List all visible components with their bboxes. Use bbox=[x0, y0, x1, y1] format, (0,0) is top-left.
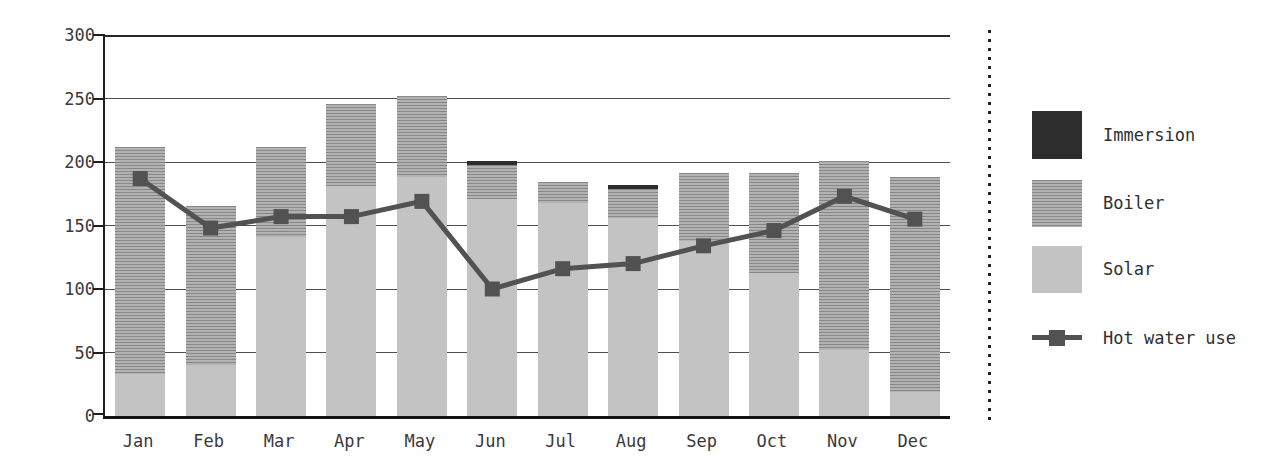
y-tick-250 bbox=[93, 98, 105, 100]
hot-water-marker-aug bbox=[626, 256, 641, 271]
plot-area bbox=[103, 35, 950, 419]
hot-water-marker-may bbox=[414, 194, 429, 209]
hot-water-use-line bbox=[105, 35, 950, 416]
x-axis-label-may: May bbox=[405, 431, 436, 451]
solar-swatch-icon bbox=[1032, 246, 1082, 293]
y-axis-label-100: 100 bbox=[0, 279, 95, 299]
y-axis: 050100150200250300 bbox=[0, 35, 95, 416]
x-axis-label-feb: Feb bbox=[193, 431, 224, 451]
y-tick-200 bbox=[93, 161, 105, 163]
y-tick-300 bbox=[93, 34, 105, 36]
y-axis-label-0: 0 bbox=[0, 406, 95, 426]
hot-water-marker-jul bbox=[555, 261, 570, 276]
legend-item-hot-water-use: Hot water use bbox=[1032, 314, 1236, 362]
legend-label-hot-water-use: Hot water use bbox=[1103, 328, 1236, 348]
immersion-swatch-icon bbox=[1032, 111, 1082, 159]
x-axis-label-oct: Oct bbox=[757, 431, 788, 451]
x-axis-label-aug: Aug bbox=[616, 431, 647, 451]
hot-water-marker-dec bbox=[907, 212, 922, 227]
y-axis-label-50: 50 bbox=[0, 343, 95, 363]
x-axis-label-apr: Apr bbox=[334, 431, 365, 451]
hot-water-marker-apr bbox=[344, 209, 359, 224]
y-tick-0 bbox=[93, 413, 105, 415]
x-axis-label-sep: Sep bbox=[686, 431, 717, 451]
y-axis-label-150: 150 bbox=[0, 216, 95, 236]
y-axis-label-300: 300 bbox=[0, 25, 95, 45]
boiler-swatch-icon bbox=[1032, 180, 1082, 227]
hot-water-marker-sep bbox=[696, 238, 711, 253]
hot-water-marker-oct bbox=[766, 223, 781, 238]
legend-separator-dotted-line bbox=[988, 30, 991, 420]
y-axis-label-250: 250 bbox=[0, 89, 95, 109]
legend-item-boiler: Boiler bbox=[1032, 179, 1164, 227]
legend-label-boiler: Boiler bbox=[1103, 193, 1164, 213]
x-axis-label-jun: Jun bbox=[475, 431, 506, 451]
x-axis-label-dec: Dec bbox=[897, 431, 928, 451]
x-axis-label-jul: Jul bbox=[545, 431, 576, 451]
legend-item-immersion: Immersion bbox=[1032, 111, 1195, 159]
hot-water-marker-nov bbox=[837, 189, 852, 204]
hot-water-marker-jan bbox=[133, 171, 148, 186]
y-tick-50 bbox=[93, 352, 105, 354]
y-tick-150 bbox=[93, 225, 105, 227]
x-axis-label-nov: Nov bbox=[827, 431, 858, 451]
hot-water-marker-mar bbox=[274, 209, 289, 224]
hot-water-marker-jun bbox=[485, 282, 500, 297]
x-axis: JanFebMarAprMayJunJulAugSepOctNovDec bbox=[103, 431, 948, 461]
line-marker-swatch-icon bbox=[1032, 314, 1082, 362]
legend-item-solar: Solar bbox=[1032, 245, 1154, 293]
hot-water-marker-feb bbox=[203, 221, 218, 236]
y-tick-100 bbox=[93, 288, 105, 290]
x-axis-label-jan: Jan bbox=[123, 431, 154, 451]
x-axis-label-mar: Mar bbox=[264, 431, 295, 451]
y-axis-label-200: 200 bbox=[0, 152, 95, 172]
legend-label-immersion: Immersion bbox=[1103, 125, 1195, 145]
legend-label-solar: Solar bbox=[1103, 259, 1154, 279]
monthly-hot-water-chart: 050100150200250300 JanFebMarAprMayJunJul… bbox=[0, 0, 1287, 473]
